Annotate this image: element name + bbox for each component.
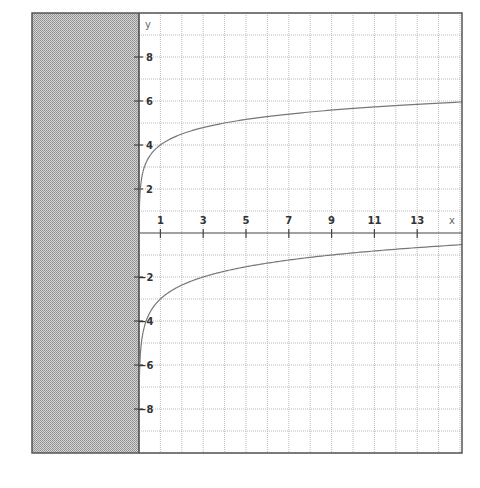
- y-tick-label: 6: [146, 96, 153, 107]
- y-tick-label: 8: [146, 52, 153, 63]
- y-tick-label: −2: [138, 272, 153, 283]
- y-axis-label: y: [145, 19, 151, 30]
- y-tick-label: −8: [138, 404, 153, 415]
- curve-lower: [139, 243, 480, 437]
- y-tick-label: −6: [138, 360, 153, 371]
- excluded-region: [32, 13, 139, 453]
- x-tick-label: 1: [157, 215, 164, 226]
- x-axis-label: x: [449, 215, 455, 226]
- graph-plot: 1357911138642−2−4−6−8 y x: [0, 0, 480, 488]
- x-tick-label: 5: [243, 215, 250, 226]
- y-tick-label: −4: [138, 316, 153, 327]
- x-tick-label: 7: [285, 215, 292, 226]
- y-tick-label: 2: [146, 184, 153, 195]
- x-tick-label: 9: [328, 215, 335, 226]
- x-tick-label: 11: [367, 215, 381, 226]
- y-tick-label: 4: [146, 140, 153, 151]
- x-tick-label: 13: [410, 215, 424, 226]
- curve-upper: [139, 101, 480, 255]
- x-tick-label: 3: [200, 215, 207, 226]
